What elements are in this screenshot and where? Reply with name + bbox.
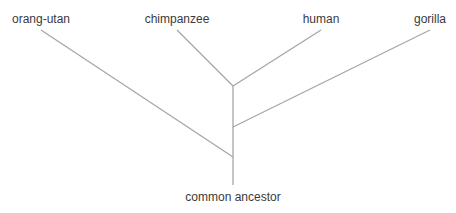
- root-label-common-ancestor: common ancestor: [185, 190, 280, 204]
- phylogenetic-tree: orang-utan chimpanzee human gorilla comm…: [0, 0, 456, 213]
- leaf-label-gorilla: gorilla: [414, 12, 446, 26]
- tree-branches: [0, 0, 456, 213]
- gorilla-branch: [233, 30, 430, 127]
- orang-utan-branch: [41, 30, 233, 157]
- chimpanzee-branch: [177, 30, 233, 86]
- human-branch: [233, 30, 321, 86]
- leaf-label-chimpanzee: chimpanzee: [145, 12, 210, 26]
- leaf-label-orang-utan: orang-utan: [12, 12, 70, 26]
- leaf-label-human: human: [303, 12, 340, 26]
